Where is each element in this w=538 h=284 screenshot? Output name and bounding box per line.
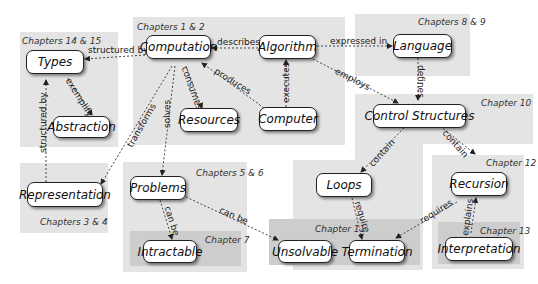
edge-label-solves: solves: [162, 100, 172, 128]
edge-label-expressed-in: expressed in: [330, 36, 387, 46]
node-termination[interactable]: Termination: [349, 240, 405, 263]
node-intractable[interactable]: Intractable: [143, 240, 197, 263]
node-recursion[interactable]: Recursion: [451, 172, 507, 196]
node-representation[interactable]: Representation: [27, 182, 103, 207]
node-abstraction[interactable]: Abstraction: [53, 116, 110, 138]
edge-label-executes: executes: [281, 63, 291, 103]
node-control-structures[interactable]: Control Structures: [373, 104, 466, 128]
node-resources[interactable]: Resources: [180, 108, 238, 132]
node-loops[interactable]: Loops: [316, 173, 372, 197]
node-algorithm[interactable]: Algorithm: [259, 35, 316, 59]
node-types[interactable]: Types: [26, 50, 84, 74]
node-problems[interactable]: Problems: [130, 176, 186, 200]
node-unsolvable[interactable]: Unsolvable: [278, 240, 332, 263]
node-computer[interactable]: Computer: [259, 107, 317, 131]
node-language[interactable]: Language: [393, 34, 452, 58]
edge-label-defines: defines: [416, 65, 426, 98]
edge-label-describes: describes: [217, 37, 260, 47]
node-computation[interactable]: Computation: [146, 35, 211, 59]
node-interpretation[interactable]: Interpretation: [445, 237, 513, 261]
